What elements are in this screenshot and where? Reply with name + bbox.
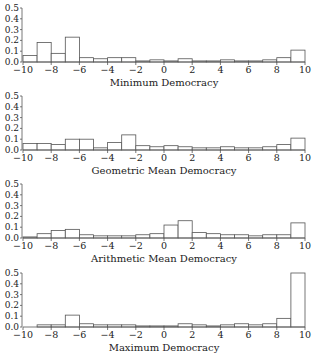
x-tick-label: −6 [72, 240, 86, 251]
axis-title: Arithmetic Mean Democracy [90, 253, 237, 264]
y-tick-label: 0.1 [5, 311, 19, 321]
y-tick-label: 0.2 [5, 123, 19, 133]
x-tick-label: −4 [101, 240, 115, 251]
x-tick-label: −10 [13, 152, 33, 163]
x-tick-label: −8 [44, 240, 58, 251]
histogram-bar [37, 144, 51, 150]
histogram-bar [277, 235, 291, 238]
x-tick-label: 10 [299, 329, 311, 340]
x-tick-label: 4 [217, 64, 223, 75]
histogram-bar [291, 50, 305, 62]
x-tick-label: 2 [189, 240, 195, 251]
x-tick-label: −8 [44, 152, 58, 163]
x-tick-label: 10 [299, 64, 311, 75]
y-tick-label: 0.5 [5, 268, 20, 278]
x-tick-label: 8 [274, 152, 280, 163]
histogram-bar [65, 315, 79, 327]
x-tick-label: −4 [101, 152, 115, 163]
histogram-bar [122, 135, 136, 150]
histogram-bar [51, 230, 65, 238]
histogram-bar [220, 235, 234, 238]
histogram-bar [65, 139, 79, 150]
x-tick-label: 0 [161, 152, 167, 163]
y-tick-label: 0.3 [5, 290, 20, 300]
axis-title: Geometric Mean Democracy [92, 165, 237, 176]
x-tick-label: 2 [189, 64, 195, 75]
histogram-bar [108, 58, 122, 62]
y-tick-label: 0.1 [5, 134, 19, 144]
y-tick-label: 0.3 [5, 113, 20, 123]
histogram-bar [136, 146, 150, 150]
x-tick-label: 0 [161, 329, 167, 340]
x-tick-label: −10 [13, 329, 33, 340]
x-tick-label: 0 [161, 240, 167, 251]
histogram-bar [94, 59, 108, 62]
x-tick-label: 4 [217, 240, 223, 251]
chart-canvas: 0.00.10.20.30.40.5−10−8−6−4−20246810Mini… [0, 0, 314, 363]
histogram-panel: 0.00.10.20.30.40.5−10−8−6−4−20246810Geom… [5, 91, 311, 176]
x-tick-label: 4 [217, 152, 223, 163]
x-tick-label: 10 [299, 240, 311, 251]
y-tick-label: 0.4 [5, 279, 20, 289]
histogram-bar [23, 144, 37, 150]
histogram-bar [136, 235, 150, 238]
x-tick-label: −6 [72, 152, 86, 163]
histogram-bar [79, 139, 93, 150]
histogram-bar [122, 58, 136, 62]
histogram-stack: 0.00.10.20.30.40.5−10−8−6−4−20246810Mini… [0, 0, 314, 363]
x-tick-label: 4 [217, 329, 223, 340]
histogram-bar [192, 233, 206, 238]
x-tick-label: 6 [246, 64, 252, 75]
x-tick-label: −2 [129, 240, 143, 251]
histogram-bar [263, 147, 277, 150]
histogram-bar [206, 234, 220, 238]
x-tick-label: 0 [161, 64, 167, 75]
histogram-bar [79, 58, 93, 62]
y-tick-label: 0.2 [5, 300, 19, 310]
x-tick-label: 6 [246, 329, 252, 340]
histogram-bar [150, 147, 164, 150]
x-tick-label: 6 [246, 152, 252, 163]
histogram-bar [220, 147, 234, 150]
histogram-bar [164, 146, 178, 150]
histogram-bar [65, 37, 79, 62]
x-tick-label: 8 [274, 64, 280, 75]
histogram-bar [150, 234, 164, 238]
y-tick-label: 0.4 [5, 190, 20, 200]
histogram-bar [178, 221, 192, 238]
histogram-bar [277, 145, 291, 150]
histogram-bar [51, 53, 65, 62]
y-tick-label: 0.4 [5, 14, 20, 24]
x-tick-label: −6 [72, 64, 86, 75]
axis-title: Minimum Democracy [110, 77, 219, 88]
histogram-bar [108, 142, 122, 150]
x-tick-label: −2 [129, 64, 143, 75]
y-tick-label: 0.5 [5, 179, 20, 189]
axis-title: Maximum Democracy [109, 342, 220, 353]
histogram-panel: 0.00.10.20.30.40.5−10−8−6−4−20246810Mini… [5, 3, 311, 88]
x-tick-label: 6 [246, 240, 252, 251]
x-tick-label: −10 [13, 240, 33, 251]
histogram-bar [65, 229, 79, 238]
histogram-panel: 0.00.10.20.30.40.5−10−8−6−4−20246810Arit… [5, 179, 311, 264]
histogram-bar [291, 138, 305, 150]
y-tick-label: 0.2 [5, 211, 19, 221]
y-tick-label: 0.1 [5, 46, 19, 56]
x-tick-label: 10 [299, 152, 311, 163]
histogram-bar [291, 223, 305, 238]
x-tick-label: −10 [13, 64, 33, 75]
x-tick-label: 8 [274, 329, 280, 340]
x-tick-label: −4 [101, 64, 115, 75]
x-tick-label: −2 [129, 329, 143, 340]
x-tick-label: −2 [129, 152, 143, 163]
histogram-bar [291, 273, 305, 327]
histogram-bar [79, 324, 93, 327]
histogram-bar [51, 145, 65, 150]
y-tick-label: 0.1 [5, 222, 19, 232]
histogram-bar [277, 58, 291, 62]
histogram-bar [37, 43, 51, 62]
histogram-bar [235, 324, 249, 327]
y-tick-label: 0.3 [5, 25, 20, 35]
x-tick-label: 8 [274, 240, 280, 251]
histogram-bar [178, 59, 192, 62]
